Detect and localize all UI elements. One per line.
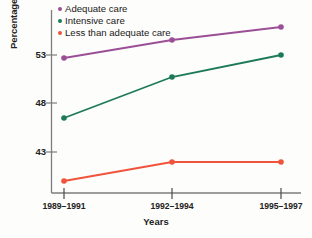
legend-label: Adequate care — [65, 4, 127, 14]
legend-item-adequate-care: Adequate care — [58, 3, 171, 15]
legend-label: Less than adequate care — [65, 28, 171, 38]
data-point — [169, 74, 175, 80]
series-line — [64, 162, 281, 181]
data-point — [278, 24, 284, 30]
chart-figure: Adequate care Intensive care Less than a… — [0, 0, 312, 238]
chart-legend: Adequate care Intensive care Less than a… — [58, 3, 171, 39]
data-point — [278, 52, 284, 58]
legend-swatch-icon — [58, 31, 62, 35]
legend-item-intensive-care: Intensive care — [58, 15, 171, 27]
data-point — [61, 178, 67, 184]
data-point — [278, 159, 284, 165]
series-line — [64, 55, 281, 118]
x-axis-title: Years — [0, 216, 312, 227]
x-tick-label: 1995–1997 — [259, 201, 302, 211]
legend-label: Intensive care — [65, 16, 125, 26]
data-point — [61, 115, 67, 121]
x-tick-label: 1992–1994 — [150, 201, 193, 211]
data-point — [61, 55, 67, 61]
x-tick-label: 1989–1991 — [42, 201, 85, 211]
legend-swatch-icon — [58, 19, 62, 23]
legend-item-less-than-adequate-care: Less than adequate care — [58, 27, 171, 39]
data-point — [169, 159, 175, 165]
series-less-than-adequate-care — [61, 159, 284, 184]
series-intensive-care — [61, 52, 284, 121]
legend-swatch-icon — [58, 7, 62, 11]
